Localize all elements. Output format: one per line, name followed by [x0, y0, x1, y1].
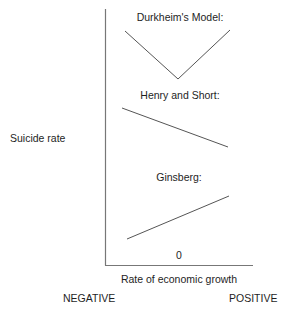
- diagram-canvas: Durkheim's Model: Henry and Short: Ginsb…: [0, 0, 288, 312]
- durkheim-model-title: Durkheim's Model:: [137, 11, 224, 23]
- henry-short-title: Henry and Short:: [140, 89, 219, 101]
- diagram-plot: [0, 0, 288, 312]
- x-negative-label: NEGATIVE: [63, 292, 115, 304]
- ginsberg-title: Ginsberg:: [156, 171, 202, 183]
- x-positive-label: POSITIVE: [229, 292, 277, 304]
- x-axis-label: Rate of economic growth: [121, 273, 237, 285]
- ginsberg-line: [127, 196, 229, 239]
- x-origin-label: 0: [176, 249, 182, 261]
- y-axis-label: Suicide rate: [10, 132, 65, 144]
- durkheim-model-line: [125, 30, 230, 79]
- henry-short-line: [122, 108, 228, 147]
